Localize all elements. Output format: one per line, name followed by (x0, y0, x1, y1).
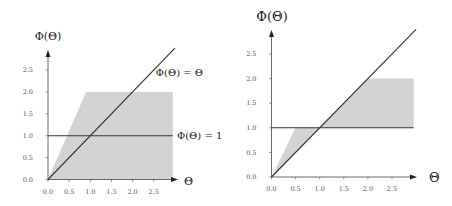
x-axis-arrow-icon (171, 177, 178, 182)
shaded-region (320, 79, 414, 128)
figure: 0.00.51.01.52.02.50.00.51.01.52.02.5Φ(Θ)… (0, 0, 452, 206)
y-tick-label: 2.5 (246, 50, 256, 58)
x-tick-label: 2.0 (363, 185, 373, 193)
y-tick-label: 0.5 (246, 149, 256, 157)
x-tick-label: 1.0 (315, 185, 325, 193)
annotation-label: Φ(Θ) = 1 (177, 130, 222, 141)
x-tick-label: 1.0 (85, 188, 95, 196)
y-tick-label: 1.5 (23, 110, 33, 118)
y-tick-label: 2.5 (23, 66, 33, 74)
y-axis-label: Φ(Θ) (256, 9, 287, 24)
y-axis-label: Φ(Θ) (35, 30, 62, 43)
y-tick-label: 1.0 (23, 132, 33, 140)
x-axis-arrow-icon (410, 175, 417, 180)
annotation-label: Φ(Θ) = Θ (156, 67, 203, 78)
y-tick-label: 0.5 (23, 154, 33, 162)
x-tick-label: 0.5 (290, 185, 300, 193)
chart-left: 0.00.51.01.52.02.50.00.51.01.52.02.5Φ(Θ)… (23, 30, 223, 196)
x-tick-label: 1.5 (339, 185, 349, 193)
x-tick-label: 0.5 (64, 188, 74, 196)
x-tick-label: 0.0 (266, 185, 276, 193)
y-tick-label: 0.0 (246, 173, 256, 181)
y-tick-label: 1.0 (246, 124, 256, 132)
y-axis-arrow-icon (46, 50, 51, 57)
x-tick-label: 1.5 (106, 188, 116, 196)
x-axis-label: Θ (184, 175, 193, 188)
y-tick-label: 2.0 (246, 75, 256, 83)
x-tick-label: 2.5 (149, 188, 159, 196)
x-tick-label: 2.5 (387, 185, 397, 193)
y-axis-arrow-icon (269, 30, 274, 37)
y-tick-label: 1.5 (246, 99, 256, 107)
y-tick-label: 0.0 (23, 176, 33, 184)
x-tick-label: 2.0 (127, 188, 137, 196)
y-tick-label: 2.0 (23, 88, 33, 96)
x-tick-label: 0.0 (43, 188, 53, 196)
chart-right: 0.00.51.01.52.02.50.00.51.01.52.02.5Φ(Θ)… (246, 9, 440, 193)
x-axis-label: Θ (429, 170, 440, 185)
